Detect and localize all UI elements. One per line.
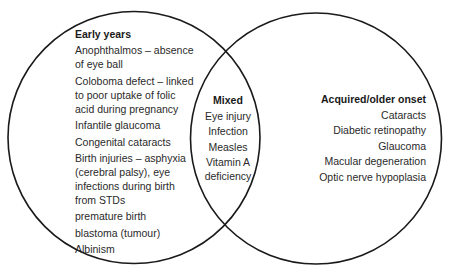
- list-item: premature birth: [75, 209, 194, 223]
- list-item: Coloboma defect – linked to poor uptake …: [75, 74, 194, 116]
- early-years-title: Early years: [75, 27, 194, 41]
- early-years-set: Early years Anophthalmos – absence of ey…: [75, 27, 194, 259]
- mixed-set: Mixed Eye injury Infection Measles Vitam…: [190, 93, 266, 185]
- list-item: blastoma (tumour): [75, 226, 194, 240]
- list-item: Albinism: [75, 242, 194, 256]
- list-item: Glaucoma: [288, 139, 426, 153]
- list-item: Anophthalmos – absence of eye ball: [75, 43, 194, 71]
- list-item: Cataracts: [288, 108, 426, 122]
- acquired-older-onset-set: Acquired/older onset Cataracts Diabetic …: [288, 92, 426, 186]
- list-item: Vitamin A deficiency: [190, 155, 266, 183]
- list-item: Infantile glaucoma: [75, 118, 194, 132]
- list-item: Measles: [190, 140, 266, 154]
- list-item: Optic nerve hypoplasia: [288, 170, 426, 184]
- list-item: Diabetic retinopathy: [288, 123, 426, 137]
- acquired-older-onset-title: Acquired/older onset: [288, 92, 426, 106]
- list-item: Congenital cataracts: [75, 135, 194, 149]
- list-item: Birth injuries – asphyxia (cerebral pals…: [75, 151, 194, 207]
- list-item: Eye injury: [190, 109, 266, 123]
- mixed-title: Mixed: [190, 93, 266, 107]
- list-item: Infection: [190, 124, 266, 138]
- list-item: Macular degeneration: [288, 154, 426, 168]
